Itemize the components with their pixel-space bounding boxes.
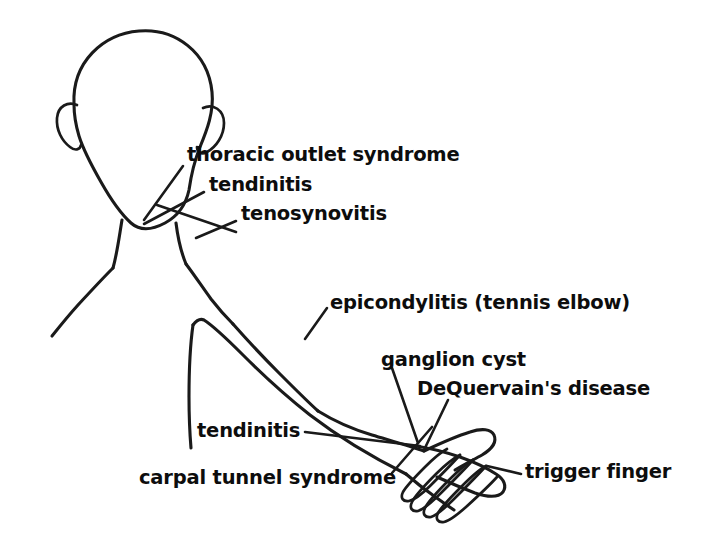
shoulder-right-to-arm [186,264,233,324]
label-tendinitis-forearm: tendinitis [197,421,300,441]
anatomy-diagram: thoracic outlet syndrome tendinitis teno… [0,0,701,556]
inner-arm-lower-edge [189,325,193,448]
elbow-crease [193,319,406,474]
label-tenosynovitis: tenosynovitis [241,204,387,224]
finger-index [437,466,497,522]
leader-shoulder-cross [157,205,236,232]
label-ganglion-cyst: ganglion cyst [381,350,526,370]
leader-tendinitis-forearm [305,432,420,446]
neck-left-edge [113,220,122,268]
label-thoracic-outlet-syndrome: thoracic outlet syndrome [187,145,460,165]
label-trigger-finger: trigger finger [525,462,671,482]
label-carpal-tunnel-syndrome: carpal tunnel syndrome [139,468,396,488]
leader-epicondylitis [305,308,327,339]
label-epicondylitis: epicondylitis (tennis elbow) [330,293,630,313]
neck-right-edge [176,223,186,264]
label-dequervains-disease: DeQuervain's disease [417,379,650,399]
leader-ganglion-cyst [392,368,418,443]
label-tendinitis-shoulder: tendinitis [209,175,312,195]
shoulder-left [52,268,113,336]
